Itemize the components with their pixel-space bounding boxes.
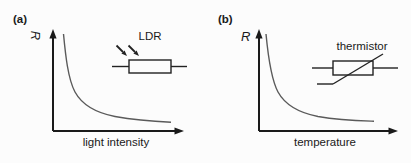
panel-b-y-axis-arrowhead-icon [255,29,262,39]
panel-a-x-axis-label: light intensity [53,137,179,149]
ldr-body [129,60,171,73]
panel-a-x-axis-arrowhead-icon [175,127,185,134]
panel-b-label: (b) [218,14,233,26]
ldr-label: LDR [126,31,174,43]
panel-b-x-axis-label: temperature [259,137,391,149]
ldr-light-arrows-icon [117,46,140,57]
panel-a-y-axis-arrowhead-icon [49,29,56,39]
panel-a-y-axis-label: R [29,31,42,40]
thermistor-label: thermistor [318,41,406,53]
ldr-thermistor-figure: (a) R light intensity LDR (b) R temperat… [0,0,411,163]
thermistor-symbol [312,54,398,84]
ldr-symbol [112,46,187,74]
panel-b-x-axis-arrowhead-icon [389,127,399,134]
panel-a-label: (a) [13,14,27,26]
panel-b-y-axis-label: R [241,30,250,43]
panel-a-axes [49,29,184,135]
